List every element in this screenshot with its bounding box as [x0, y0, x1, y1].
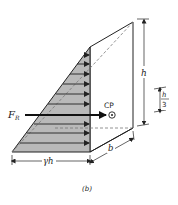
center-of-pressure-marker — [109, 112, 115, 118]
third-height-numerator: h — [162, 91, 167, 99]
pressure-triangle — [12, 47, 90, 152]
height-label: h — [141, 68, 147, 78]
base-pressure-label: γh — [43, 156, 54, 166]
plate-surface — [90, 22, 133, 152]
third-height-denominator: 3 — [162, 101, 166, 109]
resultant-force-label: FR — [7, 109, 20, 121]
pressure-prism-diagram: FR CP h h 3 γh b (b) — [0, 0, 178, 205]
cp-label: CP — [104, 101, 114, 110]
figure-caption: (b) — [82, 185, 92, 193]
width-label: b — [108, 143, 113, 153]
